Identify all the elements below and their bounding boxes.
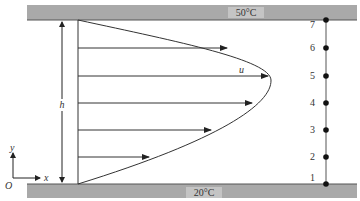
bottom-temperature-label: 20°C [194,187,215,198]
top-temperature-label: 50°C [236,7,257,18]
node-label-1: 1 [310,172,315,183]
node-label-3: 3 [310,124,315,135]
node-label-2: 2 [310,151,315,162]
node-7 [323,17,329,23]
node-1 [323,181,329,187]
coordinate-axes [13,153,40,178]
node-4 [323,100,329,106]
node-3 [323,127,329,133]
node-2 [323,154,329,160]
couette-poiseuille-flow-diagram: 50°C 20°C h u 1 2 3 4 5 [0,0,360,201]
origin-label: O [5,180,12,191]
velocity-label-u: u [239,64,244,75]
node-label-6: 6 [310,42,315,53]
node-5 [323,73,329,79]
node-label-4: 4 [310,97,315,108]
velocity-profile-curve [78,20,271,184]
gap-height-dimension: h [60,22,65,182]
x-axis-label: x [43,172,49,183]
node-label-5: 5 [310,70,315,81]
bottom-plate: 20°C [27,184,357,198]
top-plate: 50°C [27,5,357,20]
node-6 [323,45,329,51]
gap-label-h: h [60,99,65,110]
node-grid: 1 2 3 4 5 6 7 [310,17,329,187]
y-axis-label: y [9,142,15,153]
node-label-7: 7 [310,19,315,30]
